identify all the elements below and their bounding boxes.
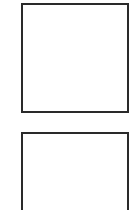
empty-square-box-2 <box>21 132 129 210</box>
empty-square-box-1 <box>21 3 129 113</box>
